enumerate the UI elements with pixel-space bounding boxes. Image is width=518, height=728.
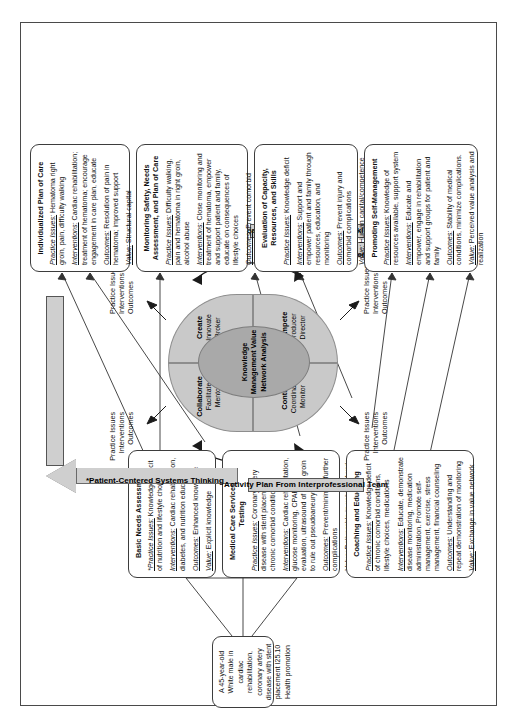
patient-description-box: A 45-year-old White male in cardiac reha… [212,636,274,708]
value-text: Structural capital [125,190,133,245]
interventions-label: Interventions: [71,222,79,265]
quadrant-role-1: Innovate [205,314,212,340]
banner-patient-centered-placeholder [46,296,64,466]
value-text: Exchange in value network [468,464,476,551]
quadrant-role-1: Facilitate [205,383,212,411]
quadrant-name: Create [195,316,204,339]
practice-issues-text: Knowledge deficit [283,157,291,215]
interventions-label: Interventions: [196,222,204,265]
triplet-line-outcomes: Outcomes [380,412,389,476]
outcomes-label: Outcomes: [336,231,344,265]
quadrant-role-2: Director [299,315,306,339]
quadrant-name: Collaborate [195,376,204,417]
interventions-label: Interventions: [282,528,290,571]
diagram-screenshot: A 45-year-old White male in cardiac reha… [0,0,518,728]
wheel-core-text: Knowledge Management Value Network Analy… [240,327,269,397]
quadrant-role-2: Monitor [299,385,306,408]
practice-issues-label: Practice Issues: [383,215,391,265]
practice-issues-label: Practice Issues: [365,521,373,571]
practice-issues-label: *Practice Issues: [147,518,155,571]
triplet-top-left: Practice Issues Interventions Outcomes [108,412,136,476]
box-monitoring-safety: Monitoring Safety, Needs Assessment, and… [136,144,248,272]
outcomes-label: Outcomes: [192,537,200,571]
outcomes-label: Outcomes: [103,231,111,265]
outcomes-label: Outcomes: [322,537,330,571]
outcomes-label: Outcomes: [446,537,454,571]
box-medical-care-services: Medical Care Services and Testing Practi… [222,450,340,578]
box-title: Coaching and Educating [352,457,361,571]
interventions-label: Interventions: [169,528,177,571]
box-title: Promoting Self-Management [370,151,379,265]
practice-issues-label: Practice Issues: [283,215,291,265]
interventions-label: Interventions: [405,222,413,265]
box-title: Monitoring Safety, Needs Assessment, and… [142,151,161,265]
value-text: Explicit knowledge [205,491,213,551]
box-evaluation-of-capacity: Evaluation of Capacity, Resources, and S… [254,144,358,272]
practice-issues-label: Practice Issues: [251,521,259,571]
banner-activity-plan-label: Activity Plan From Interprofessional Tea… [224,481,388,489]
outcomes-label: Outcomes: [245,231,253,265]
competing-values-wheel: Collaborate Facilitate Mentor Create Inn… [168,294,338,432]
value-label: Value: [468,551,476,571]
value-label: Value: [125,245,133,265]
patient-description-text: A 45-year-old White male in cardiac reha… [218,644,292,700]
figure-canvas: A 45-year-old White male in cardiac reha… [0,0,518,728]
wheel-core-label: Knowledge Management Value Network Analy… [198,326,310,398]
triplet-line-practice-issues: Practice Issues [108,412,117,476]
interventions-label: Interventions: [397,528,405,571]
triplet-line-practice-issues: Practice Issues [362,412,371,476]
triplet-line-outcomes: Outcomes [126,412,135,476]
triplet-bottom-left: Practice Issues Interventions Outcomes [362,412,390,476]
box-title: Individualized Plan of Care [36,151,45,265]
triplet-line-interventions: Interventions [371,412,380,476]
banner-activity-plan: Activity Plan From Interprofessional Tea… [248,478,364,492]
value-label: Value: [205,551,213,571]
box-title: Evaluation of Capacity, Resources, and S… [260,151,279,265]
interventions-label: Interventions: [296,222,304,265]
box-individualized-plan-of-care: Individualized Plan of Care Practice Iss… [30,144,130,272]
box-promoting-self-management: Promoting Self-Management Practice Issue… [364,144,478,272]
arrow-patient-centered-head [46,459,76,493]
practice-issues-label: Practice Issues: [165,215,173,265]
outcomes-label: Outcomes: [446,231,454,265]
triplet-line-interventions: Interventions [117,412,126,476]
value-label: Value: [468,245,476,265]
practice-issues-label: Practice Issues: [49,215,57,265]
arrow-patient-centered-label: *Patient-Centered Systems Thinking [86,476,224,485]
